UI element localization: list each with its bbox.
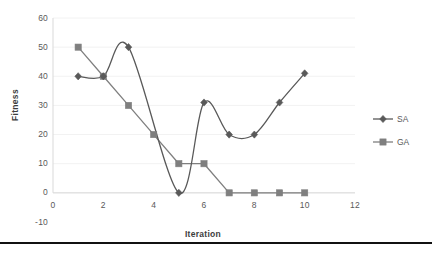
y-tick-label: 30 bbox=[22, 100, 48, 110]
x-tick-label: 6 bbox=[190, 200, 218, 210]
y-tick-label: 0 bbox=[22, 187, 48, 197]
x-tick-label: 2 bbox=[89, 200, 117, 210]
x-tick-label: 0 bbox=[39, 200, 67, 210]
x-tick-label: 10 bbox=[291, 200, 319, 210]
y-tick-label: -10 bbox=[22, 217, 48, 227]
y-tick-label: 20 bbox=[22, 129, 48, 139]
y-tick-label: 40 bbox=[22, 71, 48, 81]
y-tick-label: 10 bbox=[22, 158, 48, 168]
fitness-iteration-chart: 6050403020100-10 024681012 Fitness Itera… bbox=[0, 0, 432, 255]
series-ga-line bbox=[78, 47, 305, 193]
x-axis-title: Iteration bbox=[150, 229, 256, 239]
bottom-divider-rule bbox=[0, 242, 432, 244]
y-tick-label: 60 bbox=[22, 13, 48, 23]
series-sa-line bbox=[78, 42, 305, 193]
x-tick-label: 4 bbox=[140, 200, 168, 210]
chart-plot-area bbox=[0, 0, 432, 255]
x-tick-label: 12 bbox=[341, 200, 369, 210]
legend-marks bbox=[373, 115, 393, 145]
legend-item-ga[interactable]: GA bbox=[397, 137, 409, 147]
y-axis-title: Fitness bbox=[10, 77, 20, 133]
x-tick-label: 8 bbox=[240, 200, 268, 210]
y-tick-label: 50 bbox=[22, 42, 48, 52]
legend-item-sa[interactable]: SA bbox=[397, 114, 408, 124]
series-ga-markers bbox=[75, 44, 308, 196]
